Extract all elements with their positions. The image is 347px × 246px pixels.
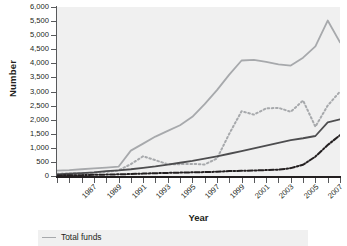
y-tick-label: 500 <box>36 158 49 166</box>
x-tick-label: 1997 <box>204 183 222 200</box>
x-tick-label: 2001 <box>253 183 271 200</box>
y-tick-label: 2,000 <box>30 116 49 124</box>
y-tick-label: 4,500 <box>30 45 49 53</box>
y-tick-label: 1,000 <box>30 144 49 152</box>
x-tick-label: 1989 <box>105 183 123 200</box>
y-tick-label: 5,000 <box>30 31 49 39</box>
series-line-4 <box>57 135 340 175</box>
x-tick-label: 1993 <box>155 183 173 200</box>
plot-area <box>57 7 340 176</box>
x-tick-label: 1987 <box>81 183 99 200</box>
y-tick-label: 4,000 <box>30 59 49 67</box>
y-axis-tick-labels: 6,0005,5005,0004,5004,0003,5003,0002,500… <box>0 0 56 182</box>
legend-swatch-line-icon <box>42 237 56 238</box>
x-axis-tick-labels: 1987198919911993199519971999200120032005… <box>0 183 347 213</box>
y-tick-label: 1,500 <box>30 130 49 138</box>
chart-legend: Total funds <box>38 230 308 246</box>
y-tick-label: 3,000 <box>30 88 49 96</box>
y-tick-label: 6,000 <box>30 3 49 11</box>
x-axis-title: Year <box>57 212 340 223</box>
x-tick-label: 1991 <box>130 183 148 200</box>
series-line-1 <box>57 21 340 171</box>
x-tick-label: 2005 <box>302 183 320 200</box>
x-tick-label: 1999 <box>228 183 246 200</box>
legend-item[interactable]: Total funds <box>42 232 102 242</box>
chart-figure: Number 6,0005,5005,0004,5004,0003,5003,0… <box>0 0 347 246</box>
series-canvas <box>57 7 340 176</box>
legend-label: Total funds <box>61 232 102 242</box>
x-tick-label: 2003 <box>278 183 296 200</box>
y-tick-label: 3,500 <box>30 73 49 81</box>
x-tick-label: 2007 <box>327 183 345 200</box>
series-line-2 <box>57 92 340 174</box>
y-tick-label: 5,500 <box>30 17 49 25</box>
x-tick-label: 1995 <box>179 183 197 200</box>
y-tick-label: 2,500 <box>30 102 49 110</box>
